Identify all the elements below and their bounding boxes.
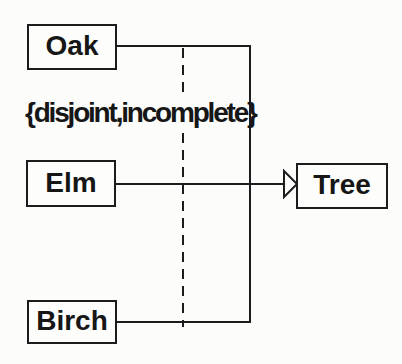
class-box-birch: Birch [27, 300, 117, 344]
class-label-elm: Elm [45, 169, 96, 199]
uml-generalization-diagram: Oak {disjoint,incomplete} Elm Birch Tree [0, 0, 402, 364]
constraint-label: {disjoint,incomplete} [25, 98, 265, 128]
class-box-oak: Oak [27, 24, 117, 70]
class-label-tree: Tree [313, 171, 371, 201]
class-box-tree: Tree [296, 163, 388, 209]
class-label-birch: Birch [36, 307, 108, 337]
class-label-oak: Oak [46, 32, 99, 62]
class-box-elm: Elm [26, 160, 116, 207]
